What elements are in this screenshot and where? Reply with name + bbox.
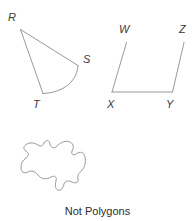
vertex-label-T: T [33, 98, 41, 110]
vertex-label-R: R [8, 11, 16, 23]
segment-Y-Z [173, 43, 185, 93]
vertex-label-Y: Y [166, 98, 174, 110]
segment-W-X [112, 43, 127, 93]
segment-T-R [21, 30, 44, 94]
shape-wxyz: W X Y Z [106, 23, 187, 110]
vertex-label-Z: Z [178, 23, 187, 35]
arc-S-T [43, 66, 78, 94]
vertex-label-X: X [106, 98, 115, 110]
shape-rst: R S T [8, 11, 91, 110]
shape-blob [21, 140, 85, 190]
figure-canvas: R S T W X Y Z Not Polygons [0, 0, 195, 221]
geometry-figure-panel: R S T W X Y Z Not Polygons [0, 0, 195, 221]
vertex-label-S: S [83, 53, 91, 65]
vertex-label-W: W [119, 23, 131, 35]
figure-caption: Not Polygons [65, 205, 131, 217]
closed-curve-blob [21, 140, 85, 190]
segment-R-S [21, 30, 79, 66]
